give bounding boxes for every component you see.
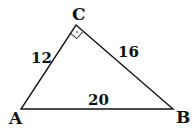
vertex-label-c: C [72, 4, 86, 24]
triangle-svg: C A B 12 16 20 [0, 0, 196, 131]
right-angle-dot [76, 31, 78, 33]
triangle-diagram: C A B 12 16 20 [0, 0, 196, 131]
side-label-cb: 16 [118, 43, 139, 61]
vertex-label-a: A [8, 108, 23, 128]
side-label-ab: 20 [88, 91, 109, 109]
side-label-ac: 12 [31, 49, 52, 67]
vertex-label-b: B [176, 107, 190, 127]
right-angle-marker [71, 32, 83, 39]
